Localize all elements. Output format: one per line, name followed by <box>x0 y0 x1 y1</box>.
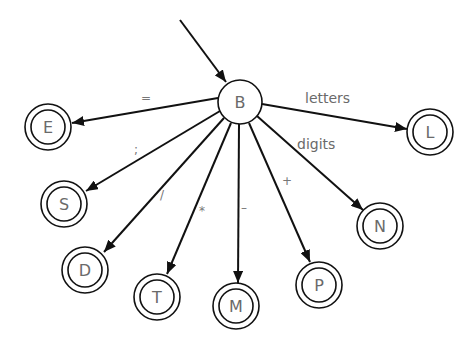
state-t-label: T <box>151 288 162 307</box>
edge-label-minus: – <box>241 201 247 215</box>
state-e-label: E <box>43 118 53 137</box>
edges <box>72 98 407 283</box>
start-arrow <box>180 20 226 82</box>
edge-label-semicolon: ; <box>134 143 138 157</box>
edge-b-to-m <box>238 124 239 283</box>
edge-label-equals: = <box>141 91 151 105</box>
state-n: N <box>357 203 403 249</box>
state-d: D <box>62 247 108 293</box>
state-p-label: P <box>314 276 324 295</box>
state-m-label: M <box>229 297 243 316</box>
state-m: M <box>213 283 259 329</box>
edge-b-to-n <box>257 116 363 210</box>
state-l: L <box>407 109 453 155</box>
state-d-label: D <box>79 261 91 280</box>
edge-b-to-l <box>262 104 407 129</box>
state-s: S <box>41 181 87 227</box>
state-t: T <box>134 274 180 320</box>
state-e: E <box>25 104 71 150</box>
edge-label-star: * <box>199 204 205 218</box>
edge-label-letters: letters <box>305 90 350 106</box>
state-b: B <box>218 80 262 124</box>
state-n-label: N <box>374 217 386 236</box>
state-diagram: = ; / * – + digits letters B E S D T M P <box>0 0 473 350</box>
edge-label-slash: / <box>160 188 165 202</box>
edge-label-plus: + <box>282 174 292 188</box>
state-s-label: S <box>59 195 69 214</box>
state-b-label: B <box>235 93 246 112</box>
state-p: P <box>296 262 342 308</box>
edge-b-to-d <box>104 118 224 252</box>
state-l-label: L <box>426 123 435 142</box>
edge-b-to-s <box>86 111 220 191</box>
edge-label-digits: digits <box>297 136 335 152</box>
